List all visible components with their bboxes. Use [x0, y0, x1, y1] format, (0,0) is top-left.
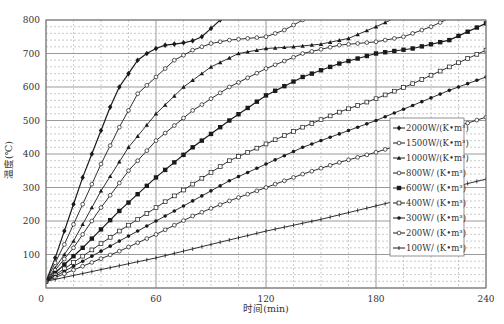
- y-tick: 200: [23, 216, 40, 226]
- y-axis-label: 温度(℃): [3, 141, 14, 179]
- y-tick: 500: [23, 116, 40, 126]
- y-tick: 100: [23, 250, 40, 260]
- legend-label: 1500W/(K•m³): [406, 138, 469, 148]
- series-line: [44, 17, 223, 284]
- y-tick-labels: 0100200300400500600700800: [23, 15, 44, 304]
- y-tick: 700: [23, 49, 40, 59]
- legend-label: 1000W/(K•m³): [406, 153, 469, 163]
- x-tick: 180: [367, 294, 384, 304]
- x-tick: 240: [477, 294, 494, 304]
- legend-label: 200W/ (K•m³): [406, 228, 466, 238]
- y-tick: 0: [38, 294, 44, 304]
- y-tick: 300: [23, 183, 40, 193]
- x-tick-labels: 60120180240: [150, 294, 495, 304]
- legend-label: 300W/ (K•m³): [406, 213, 466, 223]
- legend-label: 100W/ (K•m³): [406, 243, 466, 253]
- legend-label: 400W/ (K•m³): [406, 198, 466, 208]
- y-tick: 800: [23, 15, 40, 25]
- y-tick: 600: [23, 82, 40, 92]
- series-line: [44, 18, 304, 283]
- legend-label: 2000W/(K•m³): [406, 123, 469, 133]
- legend-label: 600W/ (K•m³): [406, 183, 466, 193]
- series-line: [44, 20, 391, 283]
- chart: 0100200300400500600700800 60120180240 时间…: [0, 0, 504, 324]
- y-tick: 400: [23, 149, 40, 159]
- legend: 2000W/(K•m³)1500W/(K•m³)1000W/(K•m³)800W…: [390, 118, 469, 256]
- x-tick: 60: [150, 294, 162, 304]
- x-axis-label: 时间(min): [243, 303, 289, 314]
- legend-label: 800W/ (K•m³): [406, 168, 466, 178]
